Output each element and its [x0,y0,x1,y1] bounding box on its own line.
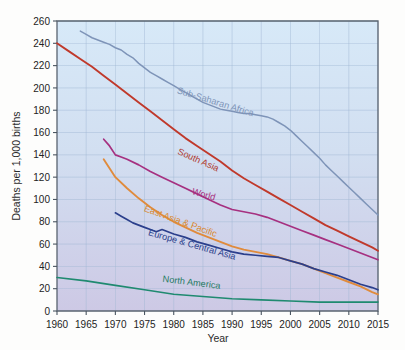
x-tick-label: 1990 [221,319,244,330]
y-tick-label: 200 [33,83,50,94]
y-tick-label: 140 [33,149,50,160]
y-tick-label: 160 [33,127,50,138]
y-axis-title: Deaths per 1,000 births [10,111,22,220]
y-tick-label: 220 [33,60,50,71]
x-tick-labels: 1960196519701975198019851990199520002005… [46,319,390,330]
x-tick-label: 1965 [75,319,98,330]
x-tick-label: 1960 [46,319,69,330]
x-tick-label: 1970 [104,319,127,330]
x-axis-title: Year [207,332,229,344]
x-tick-label: 1980 [163,319,186,330]
y-tick-label: 180 [33,105,50,116]
x-tick-label: 1985 [192,319,215,330]
y-tick-label: 0 [44,306,50,317]
x-tick-label: 1995 [250,319,273,330]
y-tick-labels: 020406080100120140160180200220240260 [33,16,50,317]
y-tick-label: 20 [39,283,51,294]
y-tick-label: 60 [39,239,51,250]
x-tick-label: 2005 [309,319,332,330]
x-tick-label: 2010 [338,319,361,330]
y-tick-label: 260 [33,16,50,27]
x-tick-label: 2000 [279,319,302,330]
y-tick-label: 40 [39,261,51,272]
x-tick-label: 1975 [133,319,156,330]
chart-figure: 020406080100120140160180200220240260 196… [0,0,405,350]
y-tick-label: 100 [33,194,50,205]
y-tick-label: 120 [33,172,50,183]
y-tick-label: 80 [39,216,51,227]
line-chart: 020406080100120140160180200220240260 196… [0,0,405,350]
x-tick-label: 2015 [367,319,390,330]
y-tick-label: 240 [33,38,50,49]
